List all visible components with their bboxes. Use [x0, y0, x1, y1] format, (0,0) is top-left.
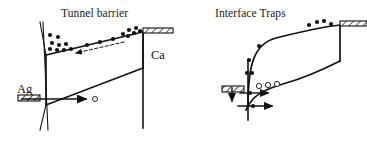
ca-electrode-hatch: [143, 28, 173, 33]
electron-dot: [55, 48, 59, 52]
electron-dot: [245, 71, 249, 75]
panel-tunnel-barrier: Tunnel barrier Ag Ca: [0, 0, 184, 142]
electron-dot: [85, 43, 89, 47]
ag-electrode-hatch: [18, 95, 40, 101]
electron-dot: [127, 28, 131, 32]
tunnel-barrier-drawing: [0, 0, 184, 142]
electron-dot: [98, 40, 102, 44]
figure-canvas: Tunnel barrier Ag Ca Interface Traps: [0, 0, 367, 142]
electron-dot: [57, 43, 61, 47]
electron-dot: [257, 44, 261, 48]
electron-dot: [111, 37, 115, 41]
electron-dot: [315, 20, 319, 24]
ag-electrode-hatch: [222, 86, 244, 92]
electron-dot: [48, 33, 52, 37]
trapped-electron-dot: [251, 104, 255, 108]
hole-carrier: [93, 97, 98, 102]
electron-dot: [307, 23, 311, 27]
electron-dot: [121, 32, 125, 36]
electron-dot: [138, 29, 142, 33]
hole-carrier: [265, 82, 270, 87]
electron-dot: [64, 42, 68, 46]
hole-carrier: [256, 83, 261, 88]
electron-dot: [62, 48, 66, 52]
trapped-electron-dot: [248, 91, 252, 95]
electron-dot: [48, 47, 52, 51]
ca-electrode-hatch: [340, 21, 367, 26]
electron-dot: [329, 22, 333, 26]
electron-dot: [134, 26, 138, 30]
electron-dot: [50, 41, 54, 45]
electron-dot: [132, 31, 136, 35]
conduction-band-curve: [248, 25, 340, 107]
electron-dot: [56, 35, 60, 39]
electron-dot: [250, 71, 254, 75]
electron-dot: [247, 58, 251, 62]
panel-interface-traps: Interface Traps: [183, 0, 367, 142]
electron-dot: [126, 34, 130, 38]
hole-carrier: [274, 81, 279, 86]
interface-traps-drawing: [183, 0, 367, 142]
electron-dot: [69, 47, 73, 51]
electron-dot: [322, 19, 326, 23]
